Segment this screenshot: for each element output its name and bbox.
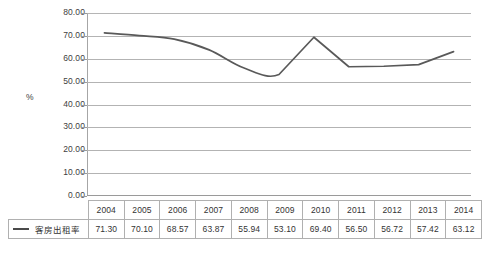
table-cell-year: 2005 — [124, 201, 160, 220]
table-row-years: 2004200520062007200820092010201120122013… — [9, 201, 482, 220]
legend-label: 客房出租率 — [35, 223, 81, 235]
table-cell-value: 53.10 — [267, 220, 303, 239]
y-axis-title: % — [26, 92, 34, 102]
table-cell-year: 2008 — [231, 201, 267, 220]
y-axis-tick-label: 40.00 — [1, 100, 85, 109]
table-cell-value: 70.10 — [124, 220, 160, 239]
table-cell-year: 2013 — [410, 201, 446, 220]
y-axis-tick-label: 50.00 — [1, 77, 85, 86]
data-table: 2004200520062007200820092010201120122013… — [8, 200, 482, 239]
line-chart: 80.0070.0060.0050.0040.0030.0020.0010.00… — [0, 0, 482, 257]
table-cell-year: 2010 — [303, 201, 339, 220]
series-line-room-occupancy — [104, 33, 453, 76]
y-axis-tick-mark — [82, 196, 87, 197]
table-cell-value: 68.57 — [160, 220, 196, 239]
table-cell-year: 2014 — [446, 201, 482, 220]
legend-line-icon — [13, 228, 29, 230]
y-axis-tick-label: 70.00 — [1, 31, 85, 40]
y-axis-tick-label: 0.00 — [1, 191, 85, 200]
table-row-values: 客房出租率 71.3070.1068.5763.8755.9453.1069.4… — [9, 220, 482, 239]
legend-cell: 客房出租率 — [9, 220, 89, 239]
table-corner-spacer — [9, 201, 89, 220]
table-cell-value: 57.42 — [410, 220, 446, 239]
table-cell-year: 2007 — [196, 201, 232, 220]
table-cell-value: 55.94 — [231, 220, 267, 239]
table-cell-year: 2012 — [374, 201, 410, 220]
table-cell-year: 2009 — [267, 201, 303, 220]
table-cell-year: 2011 — [339, 201, 375, 220]
table-cell-year: 2004 — [88, 201, 124, 220]
table-cell-value: 56.50 — [339, 220, 375, 239]
table-cell-value: 63.12 — [446, 220, 482, 239]
table-cell-value: 56.72 — [374, 220, 410, 239]
y-axis-tick-label: 80.00 — [1, 8, 85, 17]
series-layer — [87, 13, 471, 196]
y-axis-tick-label: 20.00 — [1, 145, 85, 154]
table-cell-value: 63.87 — [196, 220, 232, 239]
y-axis-tick-label: 60.00 — [1, 54, 85, 63]
y-axis-tick-label: 10.00 — [1, 168, 85, 177]
plot-area — [87, 13, 471, 196]
table-cell-value: 69.40 — [303, 220, 339, 239]
y-axis-tick-label: 30.00 — [1, 122, 85, 131]
table-cell-year: 2006 — [160, 201, 196, 220]
table-cell-value: 71.30 — [88, 220, 124, 239]
